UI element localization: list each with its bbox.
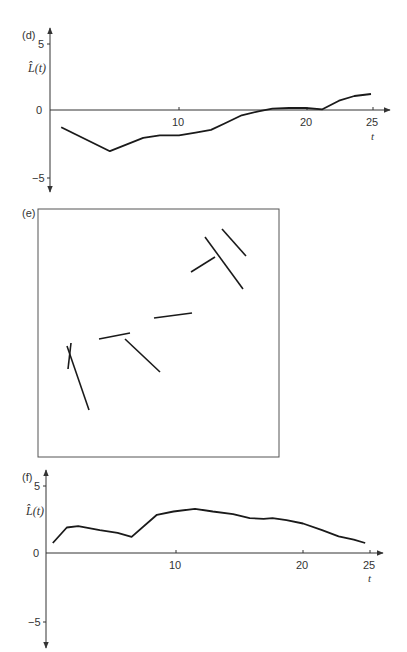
panel-f: (f) 5 0 −5 L̂(t) 10 20 25 t: [22, 470, 383, 648]
panel-f-ytick-label-neg5: −5: [28, 616, 41, 628]
panel-f-xtick-label-20: 20: [296, 559, 308, 571]
panel-e-segment: [191, 257, 215, 272]
panel-f-ytick-label-0: 0: [33, 547, 39, 559]
panel-f-ytick-label-5: 5: [34, 480, 40, 492]
panel-d-x-label: t: [371, 130, 375, 142]
panel-d-label: (d): [22, 29, 35, 41]
panel-d-ytick-label-neg5: −5: [32, 172, 45, 184]
panel-e-segment: [222, 229, 246, 256]
panel-e-segment: [125, 339, 160, 372]
panel-d-curve: [61, 94, 371, 151]
panel-f-xtick-label-25: 25: [363, 559, 375, 571]
panel-f-xtick-label-10: 10: [169, 559, 181, 571]
panel-d-xtick-label-25: 25: [366, 116, 378, 128]
panel-e-segments: [67, 229, 246, 410]
panel-e-segment: [154, 313, 192, 318]
panel-d: (d) 5 0 −5 L̂(t) 10 20 25 t: [22, 28, 390, 192]
figure-canvas: (d) 5 0 −5 L̂(t) 10 20 25 t (e) (f): [0, 0, 407, 652]
panel-f-x-label: t: [368, 572, 372, 584]
panel-f-curve: [53, 509, 365, 543]
panel-d-ytick-label-0: 0: [36, 104, 42, 116]
panel-e-segment: [205, 237, 243, 289]
panel-d-y-label: L̂(t): [27, 61, 46, 75]
panel-f-label: (f): [22, 471, 32, 483]
panel-e-window: [38, 209, 279, 457]
panel-e-segment: [99, 333, 130, 339]
panel-d-xtick-label-20: 20: [300, 116, 312, 128]
panel-f-y-label: L̂(t): [25, 504, 44, 518]
panel-e-label: (e): [22, 207, 35, 219]
panel-d-xtick-label-10: 10: [172, 116, 184, 128]
panel-d-ytick-label-5: 5: [38, 38, 44, 50]
panel-e: (e): [22, 207, 279, 457]
